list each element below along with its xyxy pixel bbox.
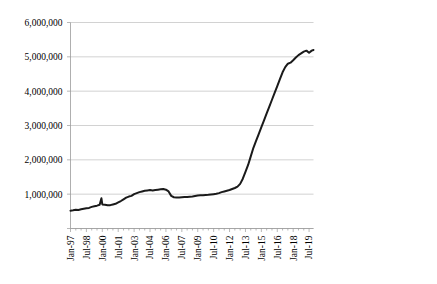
x-axis-tick-labels: Jan-97Jul-98Jan-00Jul-01Jan-03Jul-04Jan-… — [66, 235, 315, 261]
x-axis-tick-label: Jan-18 — [289, 235, 299, 261]
x-axis-tick-label: Jan-15 — [257, 235, 267, 261]
x-axis-tick-label: Jul-98 — [82, 235, 92, 259]
x-axis-tick-label: Jan-09 — [193, 235, 203, 261]
y-axis-tick-label: 1,000,000 — [25, 190, 63, 200]
x-axis-tick-label: Jan-12 — [225, 235, 235, 261]
chart-page: 1,000,0002,000,0003,000,0004,000,0005,00… — [0, 0, 437, 284]
x-axis-tick-label: Jul-16 — [273, 235, 283, 259]
x-axis-tick-label: Jul-04 — [145, 235, 155, 259]
x-axis-tick-label: Jan-97 — [66, 235, 76, 261]
x-axis-tick-label: Jan-00 — [98, 235, 108, 261]
x-axis-tick-label: Jul-07 — [177, 235, 187, 259]
y-axis-tick-label: 4,000,000 — [25, 87, 63, 97]
x-axis-tick-label: Jul-01 — [114, 235, 124, 259]
data-series-line — [71, 50, 314, 211]
data-series-group — [71, 50, 314, 211]
x-axis-line — [71, 229, 314, 233]
x-axis-tick-label: Jul-13 — [241, 235, 251, 259]
y-axis-tick-label: 3,000,000 — [25, 121, 63, 131]
y-axis-tick-labels: 1,000,0002,000,0003,000,0004,000,0005,00… — [25, 18, 63, 200]
y-axis-tick-label: 5,000,000 — [25, 52, 63, 62]
x-axis-tick-label: Jul-10 — [209, 235, 219, 259]
x-axis-tick-label: Jul-19 — [304, 235, 314, 259]
x-axis-tick-label: Jan-06 — [161, 235, 171, 261]
y-axis-line — [67, 23, 71, 229]
y-axis-tick-label: 6,000,000 — [25, 18, 63, 28]
y-axis-tick-label: 2,000,000 — [25, 155, 63, 165]
line-chart: 1,000,0002,000,0003,000,0004,000,0005,00… — [0, 0, 437, 284]
x-axis-tick-label: Jan-03 — [130, 235, 140, 261]
